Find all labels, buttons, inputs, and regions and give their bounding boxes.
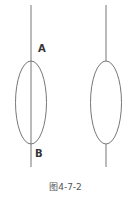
- right-ellipse: [91, 61, 122, 144]
- diagram-canvas: [0, 0, 131, 198]
- point-label-a: A: [38, 43, 46, 54]
- point-label-b: B: [35, 148, 43, 159]
- figure-caption: 图4-7-2: [0, 180, 131, 193]
